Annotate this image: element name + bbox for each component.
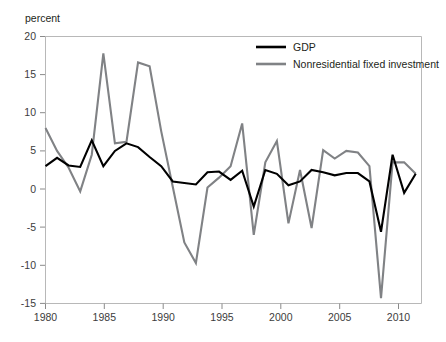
x-tick-label: 1990 xyxy=(152,311,176,323)
x-tick-label: 2010 xyxy=(387,311,411,323)
x-tick-label: 2000 xyxy=(269,311,293,323)
chart-container: percent 20 15 10 5 0 -5 -10 -15 1980 xyxy=(0,0,446,342)
y-tick-label: 10 xyxy=(24,106,36,118)
x-tick-label: 1985 xyxy=(93,311,117,323)
x-tick-label: 2005 xyxy=(328,311,352,323)
x-tick-label: 1980 xyxy=(34,311,58,323)
x-tick-label: 1995 xyxy=(210,311,234,323)
legend-label-gdp: GDP xyxy=(293,41,316,53)
y-tick-label: 5 xyxy=(30,144,36,156)
chart-legend: GDP Nonresidential fixed investment xyxy=(256,41,439,70)
y-tick-label: 20 xyxy=(24,30,36,42)
y-axis-title: percent xyxy=(25,12,60,24)
x-axis-ticks: 1980 1985 1990 1995 2000 2005 2010 xyxy=(34,304,411,324)
y-tick-label: 0 xyxy=(30,183,36,195)
legend-label-nonresidential-fixed-investment: Nonresidential fixed investment xyxy=(293,58,439,70)
y-tick-label: -15 xyxy=(21,297,36,309)
line-chart: percent 20 15 10 5 0 -5 -10 -15 1980 xyxy=(0,0,446,342)
y-tick-label: 15 xyxy=(24,68,36,80)
y-tick-label: -10 xyxy=(21,259,36,271)
y-tick-label: -5 xyxy=(27,221,36,233)
y-axis-ticks: 20 15 10 5 0 -5 -10 -15 xyxy=(21,30,45,309)
